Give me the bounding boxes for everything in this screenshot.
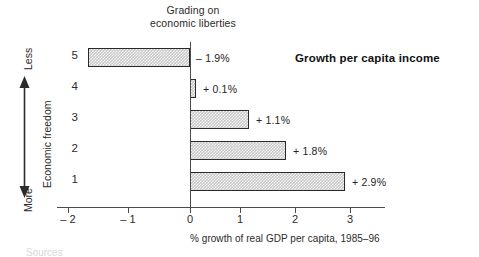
bar-value-grade-3: + 1.1%: [256, 114, 290, 126]
bar-value-grade-2: + 1.8%: [293, 145, 327, 157]
category-label: 2: [56, 142, 78, 154]
x-tick-label: 0: [178, 213, 202, 225]
footer-partial-text: Sources: [26, 247, 63, 257]
plot-area: 5 4 3 2 1 – 1.9% + 0.1% + 1.1% + 1.8% + …: [0, 0, 479, 257]
bar-grade-1: [190, 172, 345, 191]
x-tick-label: – 1: [116, 213, 140, 225]
x-axis-line: [57, 207, 385, 208]
category-label: 1: [56, 173, 78, 185]
bar-value-grade-1: + 2.9%: [352, 176, 386, 188]
bar-grade-5: [88, 48, 190, 67]
category-label: 3: [56, 111, 78, 123]
bar-value-grade-4: + 0.1%: [203, 83, 237, 95]
bar-value-grade-5: – 1.9%: [196, 52, 230, 64]
bar-grade-2: [190, 141, 286, 160]
zero-axis-line: [190, 42, 191, 208]
x-axis-caption: % growth of real GDP per capita, 1985–96: [190, 233, 380, 244]
x-tick-label: 2: [283, 213, 307, 225]
bar-grade-3: [190, 110, 249, 129]
chart-figure: Grading on economic liberties Growth per…: [0, 0, 479, 257]
category-label: 4: [56, 80, 78, 92]
x-tick-label: 3: [338, 213, 362, 225]
x-tick-label: 1: [228, 213, 252, 225]
x-tick-label: – 2: [56, 213, 80, 225]
category-label: 5: [56, 49, 78, 61]
